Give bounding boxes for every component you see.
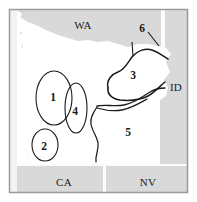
state-label-ca: CA — [56, 176, 72, 188]
region-label-1: 1 — [50, 91, 56, 103]
map-canvas: WA ID CA NV 1 2 3 4 5 6 — [0, 0, 197, 202]
region-label-2: 2 — [41, 140, 47, 152]
region-label-3: 3 — [130, 69, 136, 81]
southern-state-border — [17, 164, 188, 166]
state-label-id: ID — [170, 81, 182, 93]
wa-id-state-line — [161, 9, 165, 49]
state-label-wa: WA — [74, 19, 92, 31]
state-label-nv: NV — [140, 176, 157, 188]
map-figure: WA ID CA NV 1 2 3 4 5 6 — [0, 0, 197, 202]
region-label-5: 5 — [125, 126, 131, 138]
region-label-6: 6 — [139, 22, 145, 34]
ca-nv-state-line — [103, 166, 106, 193]
region-label-4: 4 — [72, 105, 78, 117]
